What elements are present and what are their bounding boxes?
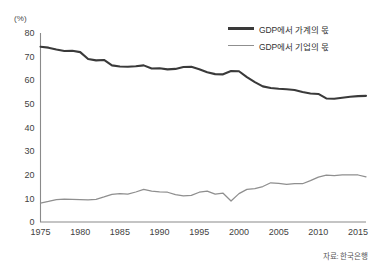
legend-item-household: GDP에서 가계의 몫: [228, 20, 370, 37]
x-tick-2005: 2005: [269, 227, 289, 237]
x-tick-2015: 2015: [348, 227, 368, 237]
y-tick-30: 30: [24, 146, 34, 156]
x-tick-1985: 1985: [110, 227, 130, 237]
series-line-corporate: [41, 175, 367, 203]
y-axis-tick-labels: 01020304050607080: [24, 28, 34, 227]
y-tick-40: 40: [24, 123, 34, 133]
chart-figure: (%) 01020304050607080 197519801985199019…: [0, 0, 376, 267]
y-tick-0: 0: [29, 217, 34, 227]
legend-label-corporate: GDP에서 기업의 몫: [259, 40, 329, 52]
chart-legend: GDP에서 가계의 몫 GDP에서 기업의 몫: [228, 20, 370, 54]
legend-swatch-corporate-icon: [228, 45, 254, 46]
y-tick-60: 60: [24, 75, 34, 85]
x-tick-1975: 1975: [30, 227, 50, 237]
x-axis-tick-labels: 197519801985199019952000200520102015: [30, 227, 368, 237]
y-tick-50: 50: [24, 99, 34, 109]
x-tick-1995: 1995: [189, 227, 209, 237]
chart-axes: [41, 33, 367, 222]
legend-item-corporate: GDP에서 기업의 몫: [228, 37, 370, 54]
y-tick-20: 20: [24, 170, 34, 180]
y-tick-70: 70: [24, 52, 34, 62]
x-tick-1980: 1980: [70, 227, 90, 237]
legend-label-household: GDP에서 가계의 몫: [259, 23, 329, 35]
y-tick-80: 80: [24, 28, 34, 38]
series-line-household: [41, 47, 367, 99]
y-tick-10: 10: [24, 194, 34, 204]
legend-swatch-household-icon: [228, 27, 254, 30]
x-tick-2010: 2010: [308, 227, 328, 237]
x-tick-1990: 1990: [150, 227, 170, 237]
x-tick-2000: 2000: [229, 227, 249, 237]
chart-source-note: 자료: 한국은행: [323, 250, 368, 261]
